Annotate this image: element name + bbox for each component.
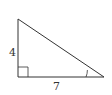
right-angle-marker [18, 67, 28, 77]
vertical-leg-label: 4 [9, 46, 16, 59]
horizontal-leg-label: 7 [53, 80, 60, 93]
angle-arc-marker [86, 70, 87, 77]
triangle-outline [18, 19, 104, 77]
right-triangle-diagram: 4 7 [0, 0, 112, 95]
